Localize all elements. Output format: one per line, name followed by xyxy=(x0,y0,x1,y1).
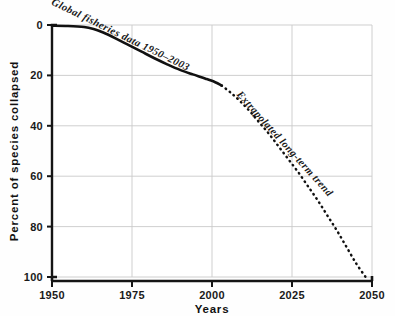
y-tick-label-60: 60 xyxy=(30,170,43,182)
y-tick-label-40: 40 xyxy=(30,120,43,132)
x-tick-label-1950: 1950 xyxy=(39,289,65,301)
x-tick-label-2050: 2050 xyxy=(359,289,385,301)
y-tick-label-0: 0 xyxy=(37,19,43,31)
x-tick-label-2000: 2000 xyxy=(199,289,225,301)
y-tick-label-80: 80 xyxy=(30,221,43,233)
x-tick-label-1975: 1975 xyxy=(119,289,145,301)
y-tick-label-20: 20 xyxy=(30,69,43,81)
x-tick-label-2025: 2025 xyxy=(279,289,305,301)
fisheries-collapse-chart: 0 20 40 60 80 100 1950 1975 2000 2025 20… xyxy=(0,0,395,316)
y-axis-title: Percent of species collapsed xyxy=(8,61,20,241)
y-tick-labels: 0 20 40 60 80 100 xyxy=(24,19,43,283)
y-tick-label-100: 100 xyxy=(24,271,43,283)
x-tick-labels: 1950 1975 2000 2025 2050 xyxy=(39,289,385,301)
chart-figure: 0 20 40 60 80 100 1950 1975 2000 2025 20… xyxy=(0,0,395,316)
x-axis-title: Years xyxy=(195,303,230,315)
